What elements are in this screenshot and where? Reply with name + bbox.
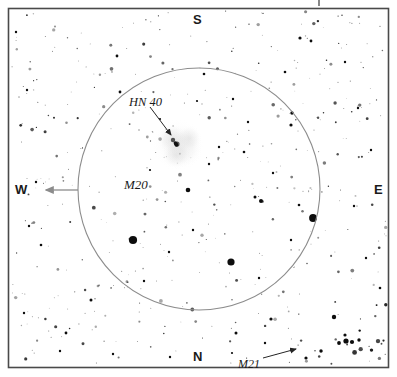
background-star [144,213,147,216]
background-star [16,37,17,38]
background-star [67,37,68,38]
background-star [94,311,95,312]
background-star [80,148,81,149]
background-star [317,20,319,22]
background-star [386,235,387,236]
background-star [361,107,362,108]
star-marker [116,55,119,58]
background-star [307,150,308,151]
background-star [372,56,373,57]
background-star [295,148,297,150]
background-star [37,266,38,267]
background-star [359,121,360,122]
background-star [21,142,22,143]
background-star [309,78,310,79]
background-star [338,314,339,315]
background-star [318,355,321,358]
background-star [290,249,292,251]
background-star [12,292,13,293]
background-star [132,111,134,113]
background-star [143,247,144,248]
background-star [144,231,146,233]
background-star [320,119,321,120]
background-star [312,22,315,25]
star-marker [379,287,382,290]
star-marker [59,350,61,352]
background-star [298,130,299,131]
background-star [262,145,263,146]
background-star [355,195,357,197]
background-star [55,155,58,158]
background-star [258,62,260,64]
background-star [53,117,55,119]
background-star [258,196,259,197]
background-star [40,178,41,179]
background-star [115,176,116,177]
background-star [361,62,362,63]
background-star [30,128,34,132]
background-star [124,287,125,288]
background-star [384,233,385,234]
background-star [379,26,380,27]
background-star [47,205,48,206]
background-star [68,169,69,170]
background-star [278,295,280,297]
background-star [54,325,57,328]
background-star [333,101,336,104]
background-star [294,60,296,62]
background-star [182,306,183,307]
background-star [314,350,316,352]
star-marker [350,340,354,344]
background-star [360,318,361,319]
background-star [376,99,377,100]
background-star [251,91,252,92]
background-star [211,326,212,327]
background-star [180,322,181,323]
background-star [178,173,182,177]
background-star [145,19,146,20]
background-star [380,115,381,116]
star-marker [65,332,68,335]
background-star [231,299,233,301]
background-star [99,114,100,115]
background-star [217,157,219,159]
background-star [235,322,237,324]
background-star [101,150,102,151]
background-star [76,82,77,83]
background-star [276,171,278,173]
background-star [45,181,46,182]
background-star [44,130,47,133]
background-star [45,105,46,106]
star-marker [129,236,137,244]
background-star [282,290,285,293]
background-star [98,192,99,193]
background-star [159,299,163,303]
star-marker [168,251,170,253]
background-star [128,274,129,275]
background-star [177,181,178,182]
background-star [205,90,206,91]
background-star [219,109,221,111]
background-star [371,204,374,207]
background-star [300,339,302,341]
star-marker [23,312,25,314]
background-star [231,328,232,329]
compass-label-west: W [15,183,28,196]
background-star [296,67,297,68]
background-star [294,91,295,92]
star-marker [319,349,322,352]
background-star [255,284,256,285]
background-star [19,124,22,127]
star-marker [310,40,313,43]
background-star [378,271,379,272]
background-star [320,74,321,75]
background-star [152,132,153,133]
background-star [25,220,26,221]
background-star [359,23,360,24]
background-star [194,320,197,323]
background-star [335,338,337,340]
background-star [163,250,164,251]
background-star [21,325,22,326]
background-star [149,185,152,188]
background-star [231,51,233,53]
